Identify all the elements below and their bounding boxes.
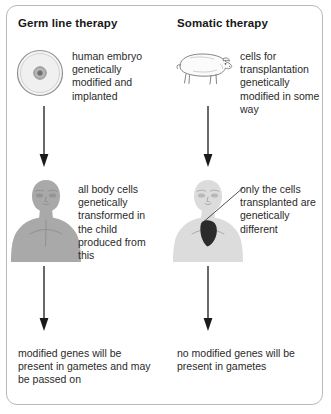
pig-icon [170,44,236,92]
embryo-cell-icon [14,47,66,99]
caption-germ-line-step2: all body cells genetically transformed i… [78,183,162,262]
gene-therapy-diagram: Germ line therapy Somatic therapy human … [0,0,331,414]
down-arrow-icon [37,106,51,168]
caption-somatic-step2: only the cells transplanted are genetica… [240,183,330,236]
caption-somatic-step1: cells for transplantation genetically mo… [240,50,328,116]
down-arrow-icon [201,266,215,332]
outcome-somatic: no modified genes will be present in gam… [177,347,317,373]
column-heading-germ-line: Germ line therapy [18,17,117,29]
caption-germ-line-step1: human embryo genetically modified and im… [72,50,158,103]
down-arrow-icon [201,106,215,168]
human-figure-icon [10,176,82,262]
column-heading-somatic: Somatic therapy [177,17,268,29]
outcome-germ-line: modified genes will be present in gamete… [18,347,158,387]
down-arrow-icon [37,266,51,332]
leader-line-icon [198,186,246,226]
